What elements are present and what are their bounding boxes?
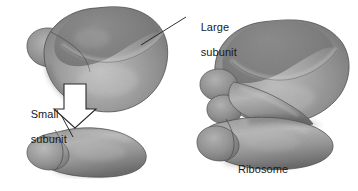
ribosome-figure: Large subunit Small subunit Ribosome <box>0 0 358 191</box>
label-small-subunit: Small subunit <box>18 95 67 158</box>
label-large-subunit-line2: subunit <box>201 46 237 58</box>
label-ribosome: Ribosome <box>238 163 288 176</box>
label-large-subunit: Large subunit <box>188 8 237 71</box>
label-large-subunit-line1: Large <box>201 21 230 33</box>
label-small-subunit-line2: subunit <box>31 133 67 145</box>
label-small-subunit-line1: Small <box>31 108 59 120</box>
